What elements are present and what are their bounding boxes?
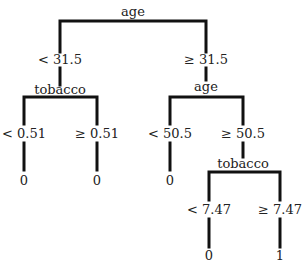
edge-label-right-left: < 50.5 [148, 127, 192, 141]
leaf-1: 0 [20, 174, 28, 188]
edge-left-tobacco [24, 97, 97, 124]
edge-label-root-left: < 31.5 [38, 53, 82, 67]
edge-label-left-right: ≥ 0.51 [75, 127, 119, 141]
leaf-3: 0 [166, 174, 174, 188]
edge-label-right-right: ≥ 50.5 [221, 127, 265, 141]
node-left-feature: tobacco [34, 83, 86, 97]
edge-bottom-tobacco [209, 172, 280, 200]
leaf-4: 0 [205, 249, 213, 263]
edge-label-root-right: ≥ 31.5 [184, 53, 228, 67]
node-right-feature: age [194, 80, 218, 94]
leaf-5: 1 [276, 249, 284, 263]
node-root-feature: age [121, 5, 145, 19]
node-right-right-feature: tobacco [217, 157, 269, 171]
edge-label-bottom-left: < 7.47 [187, 203, 231, 217]
edge-right-age [170, 97, 243, 124]
edge-root [60, 21, 206, 52]
edge-label-bottom-right: ≥ 7.47 [258, 203, 302, 217]
edge-label-left-left: < 0.51 [2, 127, 46, 141]
leaf-2: 0 [93, 174, 101, 188]
